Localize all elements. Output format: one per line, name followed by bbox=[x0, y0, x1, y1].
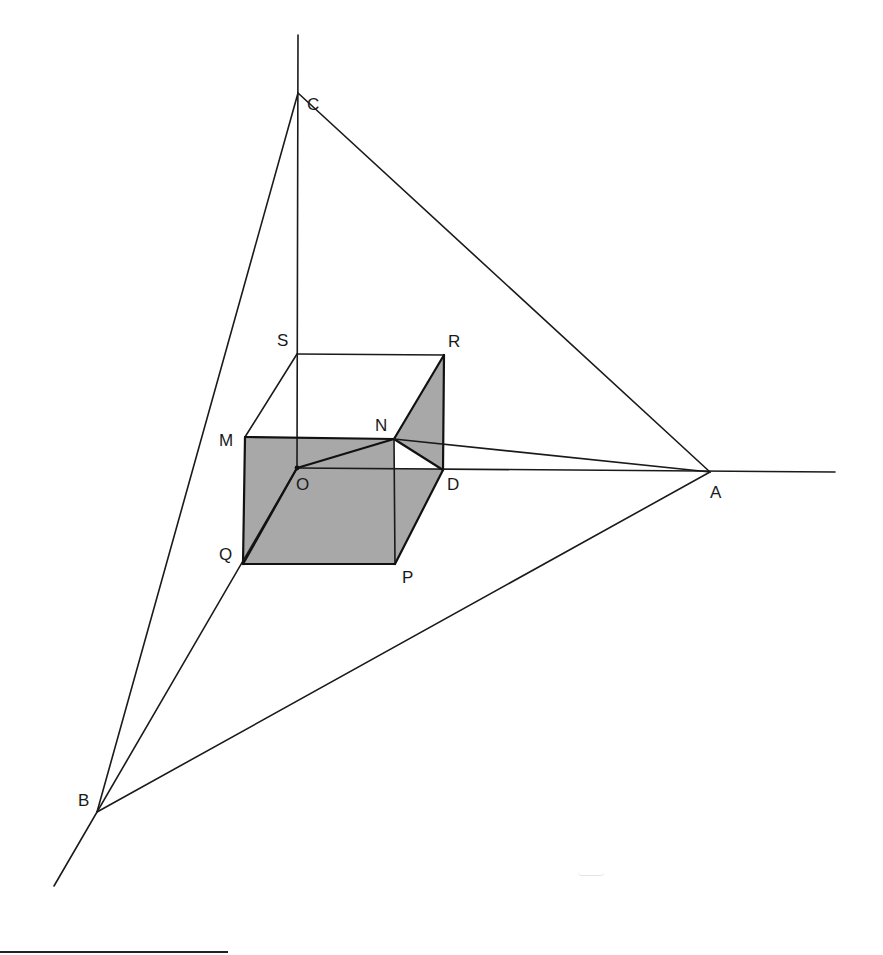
label-r: R bbox=[448, 332, 460, 351]
label-d: D bbox=[447, 475, 459, 494]
edge-sm bbox=[245, 354, 297, 437]
label-m: M bbox=[219, 431, 233, 450]
axis-vertical-oc bbox=[297, 35, 298, 468]
vertex-dot-o bbox=[295, 466, 300, 471]
axes bbox=[54, 35, 835, 886]
label-p: P bbox=[402, 568, 413, 587]
footnote-rule bbox=[0, 951, 228, 953]
perspective-box-diagram: C A B S R M N O D Q P bbox=[0, 0, 883, 955]
vertex-labels: C A B S R M N O D Q P bbox=[78, 95, 722, 810]
label-s: S bbox=[277, 331, 288, 350]
label-o: O bbox=[296, 475, 309, 494]
edge-rd bbox=[443, 355, 444, 470]
face-side-nrd bbox=[394, 355, 444, 470]
label-c: C bbox=[307, 95, 319, 114]
scan-artifact bbox=[578, 872, 604, 876]
label-n: N bbox=[375, 416, 387, 435]
label-a: A bbox=[710, 483, 722, 502]
edge-ca bbox=[298, 93, 710, 472]
shaded-faces bbox=[243, 355, 444, 564]
trace-triangle-abc bbox=[97, 93, 710, 812]
edge-np bbox=[394, 439, 395, 564]
edge-sr bbox=[297, 354, 444, 355]
label-b: B bbox=[78, 791, 89, 810]
label-q: Q bbox=[219, 545, 232, 564]
